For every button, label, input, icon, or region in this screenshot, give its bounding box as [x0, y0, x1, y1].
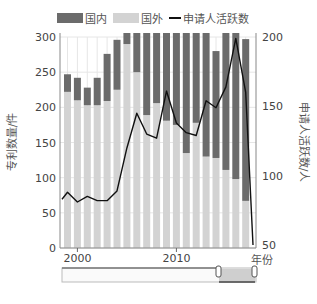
legend: 国内 国外 申请人活跃数 [57, 11, 255, 25]
foreign-swatch-icon [113, 13, 139, 23]
bar-foreign-2015 [222, 170, 229, 248]
bar-foreign-2009 [163, 121, 170, 248]
domestic-swatch-icon [57, 13, 83, 23]
bar-foreign-2010 [173, 125, 180, 248]
slider-handle-left[interactable] [216, 266, 221, 277]
bar-foreign-2013 [203, 157, 210, 248]
left-tick-100: 100 [35, 172, 56, 185]
x-tick-2010: 2010 [162, 252, 190, 265]
left-tick-150: 150 [35, 137, 56, 150]
bar-domestic-2013 [203, 33, 210, 157]
bar-foreign-2006 [133, 72, 140, 248]
bar-foreign-2002 [94, 105, 101, 248]
bar-foreign-2012 [193, 123, 200, 248]
bar-foreign-2011 [183, 153, 190, 248]
bar-domestic-2005 [123, 33, 130, 44]
right-tick-150: 150 [262, 100, 283, 113]
bar-domestic-2012 [193, 33, 200, 123]
bar-domestic-2017 [242, 39, 249, 201]
bar-foreign-1999 [64, 92, 71, 248]
right-tick-100: 100 [262, 170, 283, 183]
range-slider[interactable] [62, 266, 257, 282]
bar-domestic-2007 [143, 33, 150, 115]
bar-foreign-2014 [213, 158, 220, 248]
bar-domestic-2002 [94, 78, 101, 105]
bar-domestic-2003 [104, 54, 111, 101]
line-swatch-icon [169, 17, 181, 19]
bar-domestic-2015 [222, 33, 229, 170]
slider-handle-right[interactable] [252, 266, 257, 277]
bar-foreign-2004 [114, 90, 121, 248]
left-tick-300: 300 [35, 31, 56, 44]
bar-domestic-2010 [173, 33, 180, 125]
legend-label-foreign: 国外 [141, 10, 163, 26]
legend-label-applicants: 申请人活跃数 [183, 10, 249, 26]
left-tick-200: 200 [35, 101, 56, 114]
bar-foreign-2001 [84, 105, 91, 248]
chart: 0501001502002503005010015020020002010 专利… [0, 0, 317, 304]
bar-foreign-2003 [104, 101, 111, 248]
bar-domestic-2004 [114, 40, 121, 90]
x-tick-2000: 2000 [63, 252, 91, 265]
legend-item-foreign[interactable]: 国外 [113, 10, 163, 26]
bar-domestic-2011 [183, 33, 190, 153]
x-axis-label: 年份 [251, 253, 273, 267]
bar-domestic-2006 [133, 33, 140, 72]
bar-foreign-2000 [74, 100, 81, 248]
bar-domestic-2001 [84, 88, 91, 106]
left-axis-label: 专利数量/件 [5, 113, 19, 172]
left-tick-0: 0 [49, 242, 56, 255]
legend-label-domestic: 国内 [85, 10, 107, 26]
left-tick-50: 50 [42, 207, 56, 220]
legend-item-domestic[interactable]: 国内 [57, 10, 107, 26]
right-tick-200: 200 [262, 31, 283, 44]
right-tick-50: 50 [262, 239, 276, 252]
bar-domestic-1999 [64, 74, 71, 92]
legend-item-applicants[interactable]: 申请人活跃数 [169, 10, 249, 26]
bar-foreign-2016 [232, 179, 239, 248]
bar-domestic-2000 [74, 78, 81, 101]
slider-selected-range[interactable] [219, 269, 255, 282]
bar-foreign-2017 [242, 201, 249, 248]
bar-domestic-2009 [163, 33, 170, 121]
bar-domestic-2008 [153, 33, 160, 103]
bar-domestic-2014 [213, 51, 220, 158]
right-axis-label: 申请人活跃数/人 [297, 102, 311, 183]
left-tick-250: 250 [35, 66, 56, 79]
